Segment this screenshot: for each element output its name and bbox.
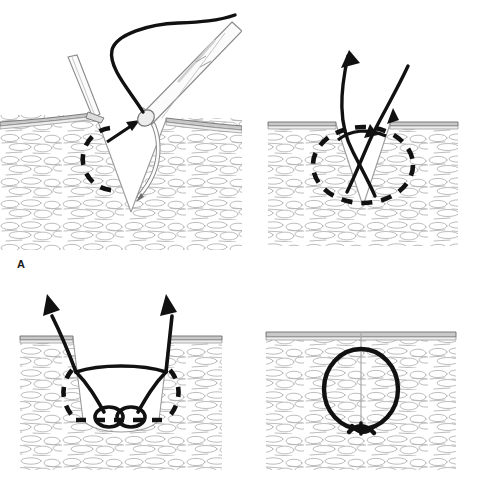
panel-a-illustration [0, 0, 242, 280]
panel-a: A [0, 0, 242, 280]
exit-arrow-b [341, 50, 360, 68]
dermis-tissue-b [268, 120, 458, 248]
panel-label-a: A [17, 259, 25, 270]
epidermis-layer-c-right [169, 336, 222, 343]
epidermis-layer-b-left [268, 122, 336, 129]
needle-holder-a [134, 22, 242, 130]
panel-d: D [242, 280, 483, 496]
panel-b: B [242, 0, 483, 280]
forceps-a [68, 55, 104, 123]
epidermis-layer-b-right [390, 122, 458, 129]
panel-c-illustration [0, 280, 242, 496]
figure-root: A [0, 0, 483, 496]
panel-b-illustration [242, 0, 483, 280]
direction-arrow-a [107, 120, 140, 142]
dermis-tissue-c [20, 332, 222, 472]
panel-d-illustration [242, 280, 483, 496]
panel-c: C [0, 280, 242, 496]
